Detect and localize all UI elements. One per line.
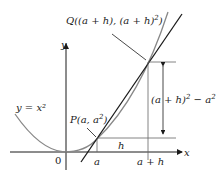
tick-a-plus-h-label: a + h — [137, 156, 164, 167]
h-label: h — [118, 140, 124, 151]
parabola-curve — [15, 12, 168, 152]
x-axis-label: x — [184, 147, 190, 158]
point-p-label: P(a, a2) — [69, 113, 107, 125]
origin-label: 0 — [55, 155, 61, 166]
q-pointer — [112, 34, 146, 60]
p-pointer — [87, 128, 96, 137]
tick-a-label: a — [94, 156, 100, 167]
rise-label: (a + h)2 − a2 — [151, 93, 216, 105]
secant-line — [81, 14, 182, 162]
diagram-canvas: Q((a + h), (a + h)2) y x 0 y = x² P(a, a… — [0, 0, 220, 174]
y-axis-label: y — [60, 39, 67, 50]
curve-label: y = x² — [15, 102, 46, 113]
point-q-label: Q((a + h), (a + h)2) — [66, 14, 163, 26]
